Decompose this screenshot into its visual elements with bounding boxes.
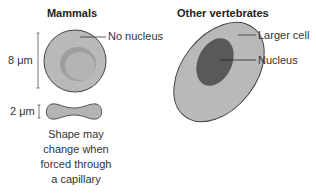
mammal-cell-side-view [46,104,101,119]
no-nucleus-label: No nucleus [108,30,164,42]
other-vertebrates-title: Other vertebrates [177,7,269,19]
thickness-scale-bar [38,105,41,118]
nucleus-label: Nucleus [258,54,298,66]
mammals-title: Mammals [47,7,97,19]
capillary-caption: Shape may change when forced through a c… [41,128,112,185]
thickness-scale-label: 2 μm [10,105,35,117]
larger-cell-label: Larger cell [258,29,309,41]
mammal-red-cell [44,30,106,92]
diameter-scale-bar [37,33,40,88]
svg-text:Shape may: Shape may [48,128,104,140]
svg-text:change when: change when [43,143,108,155]
svg-text:a capillary: a capillary [51,173,101,185]
blood-cell-diagram: Mammals 8 μm No nucleus 2 μm Shape may c… [0,0,316,193]
mammals-panel: Mammals 8 μm No nucleus 2 μm Shape may c… [8,7,164,185]
svg-text:forced through: forced through [41,158,112,170]
other-vertebrates-panel: Other vertebrates Larger cell Nucleus [155,5,309,139]
vertebrate-red-cell [155,5,282,139]
diameter-scale-label: 8 μm [8,54,33,66]
